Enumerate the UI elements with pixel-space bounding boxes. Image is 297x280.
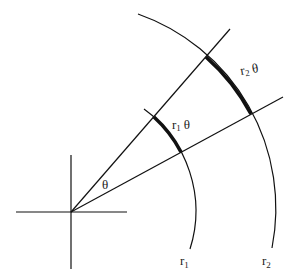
arc-length-diagram: θ r1θ r2θ r1 r2 xyxy=(0,0,297,280)
lower-ray xyxy=(71,97,283,212)
inner-radius-label: r1 xyxy=(180,253,189,270)
outer-arc-highlight xyxy=(206,57,251,114)
inner-arc-length-label: r1θ xyxy=(172,117,190,133)
upper-ray xyxy=(71,29,230,212)
outer-arc xyxy=(138,14,276,248)
outer-radius-label: r2 xyxy=(262,253,271,270)
angle-theta-label: θ xyxy=(102,177,108,192)
outer-arc-length-label: r2θ xyxy=(239,60,260,79)
